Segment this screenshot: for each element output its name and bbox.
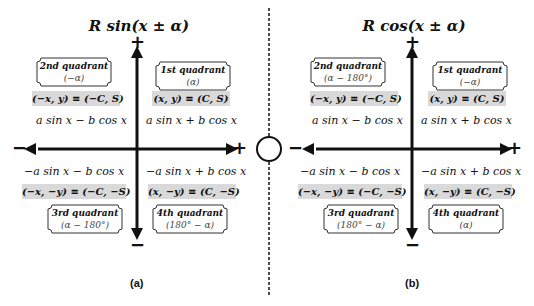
expr-2-a: a sin x − b cos x <box>36 114 127 127</box>
expr-1-b: a sin x + b cos x <box>421 114 512 127</box>
quadrant-box-2-b: 2nd quadrant (α − 180°) <box>310 57 386 87</box>
coord-label-4-b: (x, −y) ≡ (C, −S) <box>424 184 512 199</box>
x-minus-sign-a: − <box>12 139 27 157</box>
expr-3-a: −a sin x − b cos x <box>24 165 124 178</box>
quadrant-box-2-a: 2nd quadrant (−α) <box>36 57 112 87</box>
expr-2-b: a sin x − b cos x <box>312 114 403 127</box>
y-plus-sign-b: + <box>405 33 420 51</box>
coord-label-2-a: (−x, y) ≡ (−C, S) <box>32 91 120 106</box>
quadrant-box-3-b: 3rd quadrant (180° − α) <box>323 204 399 234</box>
quadrant-box-1-a: 1st quadrant (α) <box>155 61 231 91</box>
center-circle <box>257 137 281 161</box>
y-plus-sign-a: + <box>130 33 145 51</box>
x-plus-sign-b: + <box>507 139 522 157</box>
panel-b-caption: (b) <box>405 277 419 289</box>
expr-3-b: −a sin x − b cos x <box>300 165 400 178</box>
quadrant-box-4-b: 4th quadrant (α) <box>428 204 504 234</box>
y-minus-sign-a: − <box>130 236 145 254</box>
quadrant-box-1-b: 1st quadrant (−α) <box>432 61 508 91</box>
expr-1-a: a sin x + b cos x <box>146 114 237 127</box>
coord-label-3-a: (−x, −y) ≡ (−C, −S) <box>22 184 126 199</box>
y-minus-sign-b: − <box>405 236 420 254</box>
expr-4-b: −a sin x + b cos x <box>421 165 521 178</box>
coord-label-3-b: (−x, −y) ≡ (−C, −S) <box>298 184 402 199</box>
coord-label-4-a: (x, −y) ≡ (C, −S) <box>148 184 236 199</box>
x-plus-sign-a: + <box>232 139 247 157</box>
expr-4-a: −a sin x + b cos x <box>146 165 246 178</box>
quadrant-box-4-a: 4th quadrant (180° − α) <box>152 204 228 234</box>
axes-canvas <box>0 0 534 306</box>
quadrant-box-3-a: 3rd quadrant (α − 180°) <box>47 204 123 234</box>
coord-label-1-b: (x, y) ≡ (C, S) <box>428 91 506 106</box>
coord-label-1-a: (x, y) ≡ (C, S) <box>152 91 230 106</box>
panel-a-caption: (a) <box>130 277 143 289</box>
x-minus-sign-b: − <box>288 139 303 157</box>
coord-label-2-b: (−x, y) ≡ (−C, S) <box>310 91 398 106</box>
